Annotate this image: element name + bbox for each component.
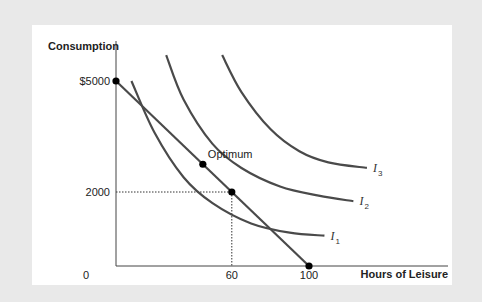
point-chosen-point — [228, 188, 235, 195]
y-tick-label: $5000 — [79, 75, 110, 87]
curve-label-subscript: 2 — [364, 202, 369, 211]
x-axis-label: Hours of Leisure — [361, 268, 448, 280]
point-max-leisure — [305, 262, 312, 269]
budget-line — [116, 81, 309, 266]
indifference-curve-i2 — [166, 55, 353, 201]
point-optimum — [199, 161, 206, 168]
curve-label-subscript: 3 — [378, 169, 383, 178]
point-endowment-consumption — [112, 77, 119, 84]
point-label-optimum: Optimum — [208, 148, 253, 160]
chart: Consumption Hours of Leisure 0601002000$… — [0, 0, 482, 302]
curve-label-subscript: 1 — [335, 237, 340, 246]
y-axis-label: Consumption — [48, 40, 119, 52]
x-tick-label: 0 — [83, 269, 89, 281]
x-tick-label: 60 — [226, 269, 238, 281]
x-tick-label: 100 — [300, 269, 318, 281]
y-tick-label: 2000 — [86, 186, 110, 198]
